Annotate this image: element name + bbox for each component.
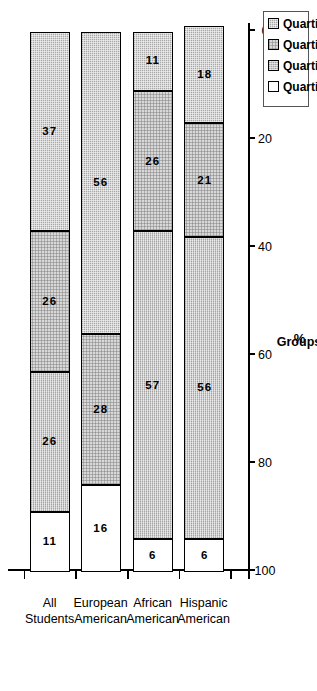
group-separator-tick [127,571,129,579]
bar-segment-value: 11 [43,536,57,548]
bar-segment-value: 26 [42,296,57,308]
legend-items: Quartile 4Quartile 3Quartile 2Quartile 1 [264,10,310,106]
group-separator-tick [75,571,77,579]
legend-item-label: Quartile 1 [283,80,317,94]
bar-segment: 11 [133,32,173,91]
legend-item-label: Quartile 4 [283,17,317,31]
bar-segment-value: 26 [42,436,57,448]
bar-stack: 162856 [81,31,121,571]
group-label: HispanicAmerican [167,596,241,627]
bar-segment: 28 [81,334,121,485]
bar-segment: 21 [184,124,224,237]
bar-segment: 18 [184,26,224,123]
x-axis-title: Groups [277,335,317,349]
bar-segment-value: 21 [197,174,212,186]
bar-segment-value: 11 [146,56,160,68]
percent-tick-label: 80 [248,456,282,470]
bar-segment: 6 [133,539,173,571]
bar-segment: 26 [30,372,70,512]
bar-segment: 16 [81,485,121,571]
bar-segment-value: 56 [197,382,212,394]
groups-axis-line [248,23,250,579]
legend-swatch-icon [268,18,279,29]
percent-tick-label: 60 [248,348,282,362]
chart-rotation-wrapper: 100806040200% 11262637162856657261165621… [0,0,317,691]
legend-item-q3[interactable]: Quartile 3 [268,34,306,55]
legend-swatch-icon [268,81,279,92]
bar-segment: 26 [30,232,70,372]
bar-segment: 56 [184,237,224,539]
legend-swatch-icon [268,39,279,50]
bar-stack: 6562118 [184,31,224,571]
legend-item-q4[interactable]: Quartile 4 [268,13,306,34]
legend: Quartile 4Quartile 3Quartile 2Quartile 1 [263,11,309,107]
bar-segment: 26 [133,91,173,231]
bar-segment-value: 57 [145,380,160,392]
bar-segment-value: 26 [145,156,160,168]
bar-segment-value: 56 [94,177,109,189]
bar-segment-value: 16 [94,523,109,535]
legend-item-label: Quartile 3 [283,38,317,52]
bar-segment: 37 [30,32,70,232]
percent-tick-label: 100 [248,564,282,578]
bar-segment-value: 28 [94,404,109,416]
group-label-line: Hispanic [167,596,241,612]
bar-segment-value: 6 [149,550,156,562]
plot-area: 1126263716285665726116562118 [18,31,236,571]
group-label-line: American [167,612,241,628]
bar-segment: 56 [81,32,121,334]
stacked-bar-chart-figure: 100806040200% 11262637162856657261165621… [0,0,317,691]
group-separator-tick [179,571,181,579]
bar-segment-value: 18 [197,69,212,81]
legend-swatch-icon [268,60,279,71]
bar-segment: 57 [133,232,173,540]
bar-stack: 6572611 [133,31,173,571]
legend-item-label: Quartile 2 [283,59,317,73]
percent-tick-label: 20 [248,132,282,146]
bar-segment: 6 [184,539,224,571]
bar-segment-value: 37 [42,126,57,138]
bar-segment-value: 6 [201,550,208,562]
percent-tick-label: 40 [248,240,282,254]
group-separator-tick [230,571,232,579]
legend-item-q1[interactable]: Quartile 1 [268,76,306,97]
bar-stack: 11262637 [30,31,70,571]
legend-item-q2[interactable]: Quartile 2 [268,55,306,76]
group-separator-tick [24,571,26,579]
bar-segment: 11 [30,512,70,571]
